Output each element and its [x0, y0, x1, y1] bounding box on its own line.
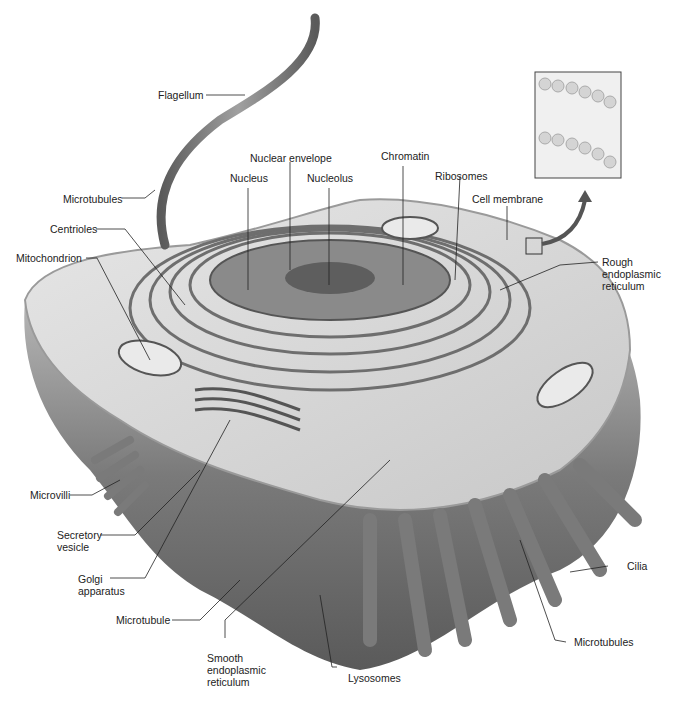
label-nucleus: Nucleus: [230, 172, 268, 184]
label-rough-er: Rough endoplasmic reticulum: [602, 256, 661, 292]
label-cell-membrane: Cell membrane: [472, 193, 543, 205]
label-mitochondrion: Mitochondrion: [16, 252, 82, 264]
flagellum: [161, 18, 315, 245]
label-ribosomes: Ribosomes: [435, 170, 488, 182]
cell-diagram: Flagellum Microtubules Centrioles Mitoch…: [0, 0, 676, 702]
label-chromatin: Chromatin: [381, 150, 429, 162]
label-centrioles: Centrioles: [50, 223, 97, 235]
label-microtubules-flagellum: Microtubules: [63, 193, 123, 205]
label-microtubules-cilia: Microtubules: [574, 636, 634, 648]
label-nuclear-envelope: Nuclear envelope: [250, 152, 332, 164]
label-golgi-apparatus: Golgi apparatus: [78, 573, 125, 597]
label-smooth-er: Smooth endoplasmic reticulum: [207, 652, 266, 688]
label-nucleolus: Nucleolus: [307, 172, 353, 184]
label-microvilli: Microvilli: [30, 489, 70, 501]
label-microtubule: Microtubule: [116, 614, 170, 626]
nucleolus: [285, 262, 375, 294]
label-flagellum: Flagellum: [158, 89, 204, 101]
label-secretory-vesicle: Secretory vesicle: [57, 529, 102, 553]
label-cilia: Cilia: [627, 560, 647, 572]
label-lysosomes: Lysosomes: [348, 672, 401, 684]
membrane-inset: [526, 72, 621, 254]
